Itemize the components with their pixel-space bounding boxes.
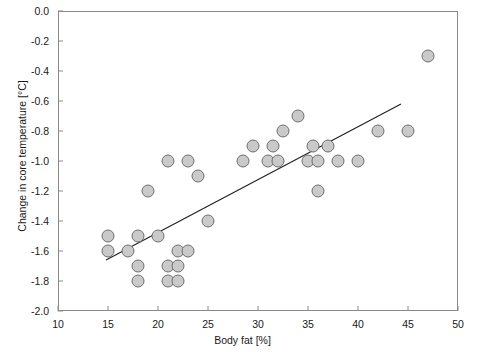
x-tick-label: 15 [88, 319, 128, 330]
data-point [132, 230, 144, 242]
y-tick-label: -1.8 [0, 276, 49, 287]
data-point [102, 245, 114, 257]
data-point [372, 125, 384, 137]
data-point [132, 260, 144, 272]
x-tick-label: 50 [438, 319, 478, 330]
y-axis-title: Change in core temperature [°C] [16, 46, 28, 266]
data-point [277, 125, 289, 137]
x-tick-label: 10 [38, 319, 78, 330]
data-point [352, 155, 364, 167]
x-tick-label: 30 [238, 319, 278, 330]
data-point [172, 260, 184, 272]
data-point [312, 155, 324, 167]
y-tick-label: -0.2 [0, 36, 49, 47]
data-point [267, 140, 279, 152]
data-point [152, 230, 164, 242]
x-tick-label: 25 [188, 319, 228, 330]
data-point [322, 140, 334, 152]
data-point [292, 110, 304, 122]
data-point [312, 185, 324, 197]
data-point [182, 245, 194, 257]
data-point [172, 275, 184, 287]
data-point [272, 155, 284, 167]
data-point [332, 155, 344, 167]
plot-canvas [58, 11, 458, 311]
x-tick-label: 45 [388, 319, 428, 330]
data-point [102, 230, 114, 242]
data-point [422, 50, 434, 62]
data-point [402, 125, 414, 137]
data-point [202, 215, 214, 227]
y-tick-label: -2.0 [0, 306, 49, 317]
scatter-plot-figure: 0.0-0.2-0.4-0.6-0.8-1.0-1.2-1.4-1.6-1.8-… [0, 0, 485, 354]
x-axis-title: Body fat [%] [0, 334, 485, 346]
x-tick-label: 20 [138, 319, 178, 330]
data-point [182, 155, 194, 167]
data-point [237, 155, 249, 167]
data-point [162, 155, 174, 167]
data-point [142, 185, 154, 197]
regression-line [106, 104, 401, 260]
x-tick-label: 35 [288, 319, 328, 330]
x-tick-label: 40 [338, 319, 378, 330]
data-point [307, 140, 319, 152]
data-point [132, 275, 144, 287]
y-tick-label: 0.0 [0, 6, 49, 17]
data-point [247, 140, 259, 152]
data-point [192, 170, 204, 182]
data-point [122, 245, 134, 257]
